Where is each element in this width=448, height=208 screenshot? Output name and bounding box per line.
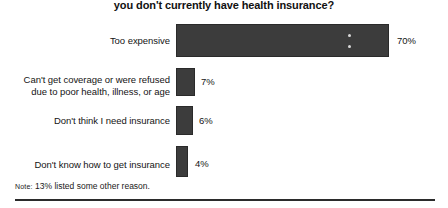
bar-label: Don't know how to get insurance (0, 159, 170, 171)
bottom-divider (15, 199, 435, 201)
bar-value: 7% (201, 76, 215, 87)
bar-label-line: Can't get coverage or were refused (0, 74, 170, 86)
bar-row: Don't think I need insurance 6% (0, 104, 448, 144)
scan-speck-icon (348, 45, 351, 48)
bar-value: 4% (195, 158, 209, 169)
bar-label-line: due to poor health, illness, or age (0, 86, 170, 98)
bar-value: 6% (199, 115, 213, 126)
scan-speck-icon (348, 34, 351, 37)
chart-note-kicker: Note: (15, 183, 33, 190)
bar-label: Can't get coverage or were refused due t… (0, 74, 170, 97)
bar-chart-figure: you don't currently have health insuranc… (0, 0, 448, 208)
bar-dont-need-insurance[interactable] (176, 106, 193, 135)
chart-note-text: 13% listed some other reason. (35, 181, 150, 191)
bar-too-expensive[interactable] (176, 24, 389, 57)
bar-row: Don't know how to get insurance 4% (0, 144, 448, 184)
bar-dont-know-how[interactable] (176, 146, 188, 177)
chart-title: you don't currently have health insuranc… (0, 0, 448, 12)
bar-label-line: Too expensive (0, 35, 170, 47)
chart-note: Note: 13% listed some other reason. (15, 181, 150, 192)
bar-rows: Too expensive 70% Can't get coverage or … (0, 20, 448, 184)
bar-label-line: Don't think I need insurance (0, 115, 170, 127)
bar-row: Can't get coverage or were refused due t… (0, 64, 448, 104)
bar-cant-get-coverage[interactable] (176, 68, 195, 96)
bar-label-line: Don't know how to get insurance (0, 159, 170, 171)
bar-label: Don't think I need insurance (0, 115, 170, 127)
bar-value: 70% (397, 35, 416, 46)
bar-label: Too expensive (0, 35, 170, 47)
bar-row: Too expensive 70% (0, 20, 448, 64)
